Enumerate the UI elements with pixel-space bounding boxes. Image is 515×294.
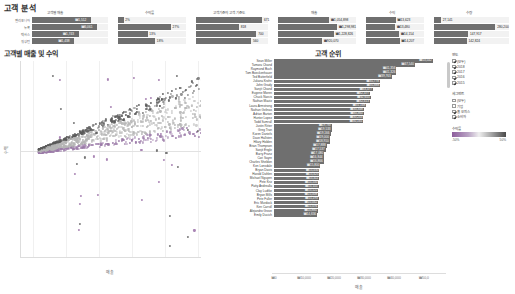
kpi-row[interactable]: ₩14,207 (360, 38, 424, 44)
checkbox-icon[interactable] (452, 110, 456, 114)
scatter-point[interactable] (145, 108, 147, 110)
scatter-point[interactable] (78, 148, 80, 150)
scatter-point[interactable] (179, 87, 181, 89)
scatter-point[interactable] (162, 93, 164, 95)
scatter-point[interactable] (198, 105, 200, 107)
kpi-row[interactable]: 텍사스₩1,743 (2, 31, 108, 37)
scatter-point[interactable] (121, 131, 123, 133)
scatter-point[interactable] (191, 117, 193, 119)
scatter-point[interactable] (156, 112, 158, 114)
scatter-point[interactable] (87, 146, 89, 148)
scatter-point[interactable] (171, 164, 173, 166)
scatter-point[interactable] (189, 133, 191, 135)
scatter-point[interactable] (79, 202, 81, 204)
scatter-point[interactable] (129, 142, 131, 144)
scatter-point[interactable] (193, 100, 195, 102)
scatter-point[interactable] (142, 141, 144, 143)
scatter-point[interactable] (106, 158, 108, 160)
scatter-point[interactable] (102, 142, 104, 144)
kpi-row[interactable]: ₩1,054,898 (272, 17, 356, 23)
scatter-point[interactable] (177, 166, 179, 168)
scatter-point[interactable] (184, 124, 186, 126)
scatter-point[interactable] (189, 110, 191, 112)
scatter-point[interactable] (169, 244, 171, 246)
scatter-point[interactable] (135, 112, 137, 114)
kpi-row[interactable]: ₩14,154 (360, 31, 424, 37)
scatter-point[interactable] (93, 155, 95, 157)
scatter-point[interactable] (155, 139, 157, 141)
kpi-row[interactable]: 142,824 (428, 38, 509, 44)
scatter-point[interactable] (169, 215, 171, 217)
scatter-point[interactable] (159, 110, 161, 112)
scatter-point[interactable] (116, 143, 118, 145)
scatter-point[interactable] (88, 138, 90, 140)
scatter-point[interactable] (145, 139, 147, 141)
scatter-point[interactable] (150, 101, 152, 103)
scatter-point[interactable] (76, 162, 78, 164)
scatter-point[interactable] (120, 135, 122, 137)
scatter-point[interactable] (84, 156, 86, 158)
scatter-point[interactable] (180, 134, 182, 136)
scatter-point[interactable] (73, 122, 75, 124)
scatter-point[interactable] (149, 130, 151, 132)
kpi-row[interactable]: 18% (112, 38, 186, 44)
checkbox-icon[interactable] (452, 76, 456, 80)
kpi-row[interactable]: 147,917 (428, 31, 509, 37)
scatter-point[interactable] (146, 126, 148, 128)
scatter-point[interactable] (74, 173, 76, 175)
kpi-row[interactable]: 280,200 (428, 24, 509, 30)
scatter-point[interactable] (175, 137, 177, 139)
scatter-point[interactable] (103, 138, 105, 140)
year-filter-item[interactable]: 2015 (452, 80, 512, 85)
kpi-row[interactable]: 캘리포니아₩1,512 (2, 17, 108, 23)
scatter-point[interactable] (175, 105, 177, 107)
scatter-point[interactable] (187, 94, 189, 96)
scatter-point[interactable] (159, 122, 161, 124)
scatter-point[interactable] (175, 88, 177, 90)
scatter-point[interactable] (150, 97, 152, 99)
scatter-point[interactable] (80, 195, 82, 197)
scatter-point[interactable] (169, 96, 171, 98)
scatter-point[interactable] (166, 112, 168, 114)
kpi-row[interactable]: 27% (112, 24, 186, 30)
checkbox-icon[interactable] (452, 70, 456, 74)
scatter-point[interactable] (160, 133, 162, 135)
scatter-point[interactable] (198, 87, 200, 89)
scatter-point[interactable] (158, 79, 160, 81)
scatter-point[interactable] (129, 112, 131, 114)
kpi-row[interactable]: 뉴욕₩6,061 (2, 24, 108, 30)
scatter-point[interactable] (167, 136, 169, 138)
scatter-point[interactable] (188, 86, 190, 88)
kpi-row[interactable]: 700 (190, 31, 268, 37)
scatter-point[interactable] (183, 126, 185, 128)
scatter-point[interactable] (180, 119, 182, 121)
scatter-point[interactable] (167, 92, 169, 94)
scatter-point[interactable] (192, 96, 194, 98)
scatter-point[interactable] (184, 90, 186, 92)
scatter-point[interactable] (185, 116, 187, 118)
kpi-row[interactable]: ₩13,623 (360, 17, 424, 23)
scatter-point[interactable] (78, 223, 80, 225)
scatter-point[interactable] (171, 90, 173, 92)
scatter-point[interactable] (149, 124, 151, 126)
scatter-point[interactable] (155, 118, 157, 120)
scatter-point[interactable] (183, 111, 185, 113)
scatter-point[interactable] (179, 128, 181, 130)
scatter-point[interactable] (200, 132, 201, 134)
scatter-point[interactable] (157, 181, 159, 183)
scatter-point[interactable] (162, 130, 164, 132)
scatter-point[interactable] (162, 119, 164, 121)
scatter-point[interactable] (168, 99, 170, 101)
checkbox-icon[interactable] (452, 104, 456, 108)
scatter-point[interactable] (52, 75, 54, 77)
vertical-scrollbar[interactable] (447, 62, 450, 88)
kpi-row[interactable]: 560 (190, 38, 268, 44)
scatter-point[interactable] (142, 125, 144, 127)
scatter-point[interactable] (141, 121, 143, 123)
scatter-point[interactable] (180, 93, 182, 95)
checkbox-icon[interactable] (452, 65, 456, 69)
kpi-row[interactable]: ₩1,228,826 (272, 31, 356, 37)
scatter-point[interactable] (141, 199, 143, 201)
scatter-point[interactable] (91, 144, 93, 146)
scatter-point[interactable] (156, 104, 158, 106)
